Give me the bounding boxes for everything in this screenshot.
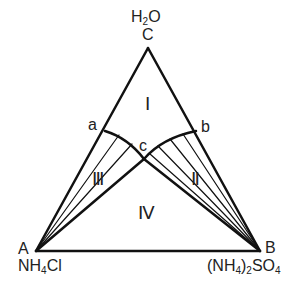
ternary-diagram	[0, 0, 303, 291]
point-c-label: c	[139, 138, 147, 154]
tie-line	[170, 139, 260, 251]
vertex-right-formula: (NH4)2SO4	[207, 258, 281, 279]
tie-line	[158, 146, 260, 251]
vertex-left-letter: A	[18, 241, 29, 257]
vertex-right-letter: B	[265, 240, 276, 256]
vertex-left-formula: NH4Cl	[18, 258, 62, 279]
region-I-label: Ⅰ	[145, 96, 150, 112]
edge-ca	[36, 48, 148, 251]
vertex-top-letter: C	[142, 27, 154, 43]
point-b-label: b	[201, 119, 210, 135]
tie-line	[150, 154, 260, 251]
region-III-label: Ⅲ	[92, 171, 104, 187]
edge-cb	[148, 48, 260, 251]
tie-line	[36, 135, 119, 251]
region-IV-label: Ⅳ	[138, 205, 155, 221]
line-c-a	[36, 159, 144, 251]
tie-line	[36, 144, 132, 251]
line-c-b	[144, 159, 260, 251]
region-II-label: Ⅱ	[191, 171, 200, 187]
point-a-label: a	[88, 117, 97, 133]
